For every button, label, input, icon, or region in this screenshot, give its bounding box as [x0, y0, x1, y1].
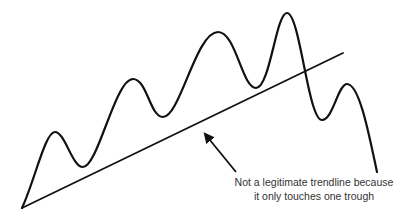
annotation-line-2: it only touches one trough: [228, 189, 400, 203]
annotation-caption: Not a legitimate trendline because it on…: [228, 175, 400, 203]
annotation-arrow-icon: [205, 134, 236, 172]
annotation-line-1: Not a legitimate trendline because: [228, 175, 400, 189]
